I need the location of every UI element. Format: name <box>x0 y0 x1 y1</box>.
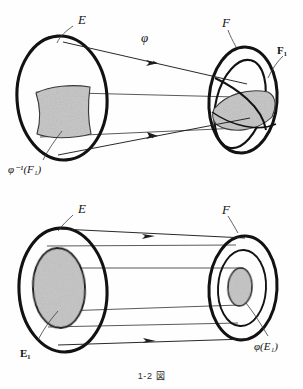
label-top-F1: F₁ <box>277 44 287 56</box>
figure-root: E F φ F₁ φ⁻¹(F₁) <box>0 0 303 389</box>
leader-F-bottom <box>228 216 238 233</box>
top-left-preimage-region <box>36 86 91 138</box>
leader-image <box>246 303 268 336</box>
top-diagram: E F φ F₁ φ⁻¹(F₁) <box>8 12 287 176</box>
label-top-F: F <box>221 15 231 30</box>
figure-caption: 1-2 図 <box>0 369 303 382</box>
label-bottom-F: F <box>221 202 231 217</box>
label-bottom-E1: E₁ <box>20 347 31 359</box>
bottom-diagram: E F E₁ φ(E₁) <box>16 201 280 359</box>
leader-F-top <box>228 30 236 47</box>
leader-E-top <box>57 26 73 43</box>
bottom-right-image-disc <box>227 267 253 306</box>
label-bottom-image: φ(E₁) <box>254 340 278 353</box>
label-top-E: E <box>77 12 86 27</box>
label-top-map-phi: φ <box>141 30 148 45</box>
bottom-left-subset-E1 <box>31 247 87 330</box>
label-top-preimage: φ⁻¹(F₁) <box>8 163 42 176</box>
figure-illustration: E F φ F₁ φ⁻¹(F₁) <box>0 0 303 389</box>
top-arrowheads <box>146 60 158 139</box>
bottom-arrow-upper <box>61 229 245 238</box>
bottom-arrowheads <box>142 234 156 343</box>
label-bottom-E: E <box>77 201 86 216</box>
